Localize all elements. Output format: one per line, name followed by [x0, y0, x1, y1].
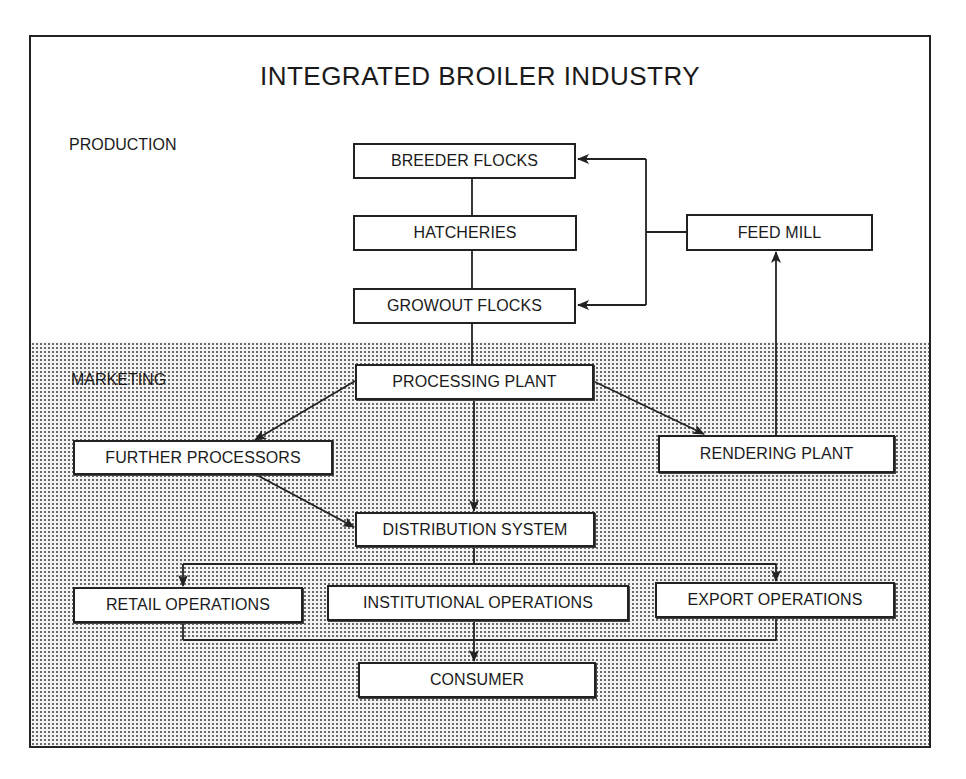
section-label-production: PRODUCTION [69, 136, 177, 154]
node-consumer[interactable]: CONSUMER [358, 662, 596, 698]
node-further-processors[interactable]: FURTHER PROCESSORS [73, 440, 333, 475]
node-feed-mill[interactable]: FEED MILL [686, 214, 873, 251]
node-distribution-system[interactable]: DISTRIBUTION SYSTEM [355, 512, 595, 547]
node-breeder-flocks[interactable]: BREEDER FLOCKS [353, 143, 576, 179]
node-processing-plant[interactable]: PROCESSING PLANT [355, 364, 594, 400]
diagram-title: INTEGRATED BROILER INDUSTRY [31, 61, 929, 92]
node-export-operations[interactable]: EXPORT OPERATIONS [655, 582, 895, 618]
node-hatcheries[interactable]: HATCHERIES [353, 215, 577, 251]
section-label-marketing: MARKETING [71, 371, 166, 389]
node-retail-operations[interactable]: RETAIL OPERATIONS [73, 587, 303, 623]
node-institutional-operations[interactable]: INSTITUTIONAL OPERATIONS [327, 585, 629, 621]
node-growout-flocks[interactable]: GROWOUT FLOCKS [353, 288, 576, 324]
node-rendering-plant[interactable]: RENDERING PLANT [658, 435, 895, 473]
